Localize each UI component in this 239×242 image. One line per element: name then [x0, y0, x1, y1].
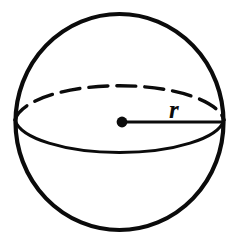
center-point-dot [117, 117, 128, 128]
sphere-diagram: r [0, 0, 239, 242]
sphere-diagram-canvas: r [0, 0, 239, 242]
radius-label: r [169, 96, 179, 123]
